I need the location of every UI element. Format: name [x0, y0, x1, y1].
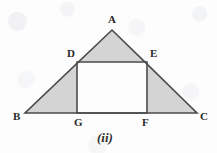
vertex-label-a: A: [108, 14, 116, 25]
vertex-label-f: F: [142, 117, 149, 128]
figure-caption: (ii): [97, 131, 113, 144]
vertex-label-e: E: [150, 48, 157, 59]
vertex-label-g: G: [74, 117, 83, 128]
unshaded-region-rectangle-defg: [77, 62, 147, 113]
vertex-label-d: D: [67, 48, 75, 59]
shaded-region-apex-triangle-ade: [77, 30, 147, 62]
geometry-figure: A D E B G F C (ii): [0, 0, 217, 153]
vertex-label-b: B: [13, 111, 20, 122]
vertex-label-c: C: [200, 111, 208, 122]
